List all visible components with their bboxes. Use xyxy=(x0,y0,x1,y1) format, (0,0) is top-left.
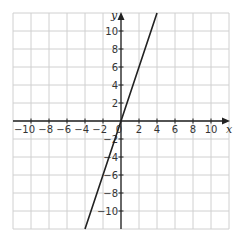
y-tick-label: −8 xyxy=(103,188,118,199)
x-axis-label: x xyxy=(226,123,233,136)
y-tick-label: 8 xyxy=(112,44,118,55)
x-tick-label: 4 xyxy=(154,124,160,135)
coordinate-grid-chart: −10−8−6−4−20246810−10−8−6−4−2246810 x y xyxy=(0,0,238,238)
x-tick-label: 6 xyxy=(172,124,178,135)
y-tick-label: −6 xyxy=(103,170,118,181)
x-tick-label: 2 xyxy=(136,124,142,135)
x-tick-label: −6 xyxy=(56,124,71,135)
x-tick-label: −4 xyxy=(74,124,89,135)
x-tick-label: −8 xyxy=(38,124,53,135)
y-tick-label: 10 xyxy=(105,26,118,37)
y-tick-label: 2 xyxy=(112,98,118,109)
x-tick-label: 8 xyxy=(190,124,196,135)
y-tick-label: 4 xyxy=(112,80,118,91)
y-tick-label: 6 xyxy=(112,62,118,73)
x-tick-label: −10 xyxy=(14,124,35,135)
y-axis-label: y xyxy=(110,9,118,22)
y-tick-label: −10 xyxy=(97,206,118,217)
x-tick-label: 10 xyxy=(205,124,218,135)
